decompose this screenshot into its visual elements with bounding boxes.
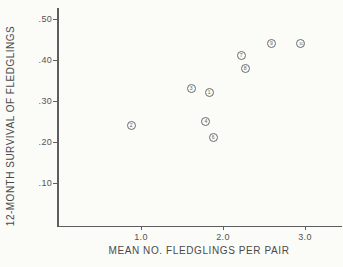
y-tick-mark: [53, 19, 58, 20]
x-tick-mark: [223, 226, 224, 230]
x-tick-label: 1.0: [134, 232, 147, 242]
y-axis-label: 12-MONTH SURVIVAL OF FLEDGLINGS: [5, 26, 16, 226]
scatter-plot-figure: 12-MONTH SURVIVAL OF FLEDGLINGS MEAN NO.…: [0, 0, 343, 267]
y-tick-mark: [53, 183, 58, 184]
data-point-8: 8: [241, 64, 250, 73]
y-tick-label: .20: [28, 137, 52, 147]
data-point-9: 9: [267, 39, 276, 48]
x-axis-label: MEAN NO. FLEDGLINGS PER PAIR: [108, 245, 289, 256]
data-point-1: 1: [205, 88, 214, 97]
data-point-6: 6: [209, 133, 218, 142]
y-tick-mark: [53, 142, 58, 143]
data-point-3: 3: [187, 84, 196, 93]
y-tick-label: .40: [28, 55, 52, 65]
x-tick-mark: [141, 226, 142, 230]
data-point-10: 10: [296, 39, 305, 48]
x-tick-mark: [305, 226, 306, 230]
data-point-4: 4: [201, 117, 210, 126]
data-point-2: 2: [127, 121, 136, 130]
data-point-7: 7: [237, 51, 246, 60]
y-tick-mark: [53, 101, 58, 102]
x-tick-label: 3.0: [298, 232, 311, 242]
y-tick-label: .10: [28, 178, 52, 188]
y-tick-mark: [53, 60, 58, 61]
x-axis-line: [57, 226, 342, 228]
y-axis-line: [57, 8, 59, 226]
y-tick-label: .30: [28, 96, 52, 106]
x-tick-label: 2.0: [216, 232, 229, 242]
y-tick-label: .50: [28, 14, 52, 24]
